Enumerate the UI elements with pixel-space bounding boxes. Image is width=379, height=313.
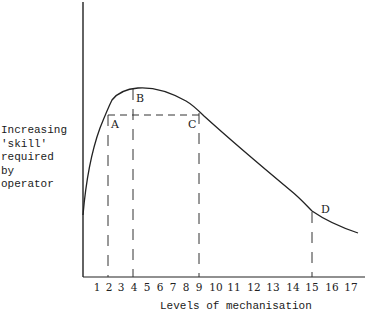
x-tick-14: 14 [286, 281, 300, 293]
skill-curve [83, 88, 358, 233]
y-axis-label: Increasing 'skill' required by operator [1, 124, 67, 192]
x-tick-4: 4 [131, 281, 138, 293]
x-tick-5: 5 [144, 281, 151, 293]
x-tick-2: 2 [106, 281, 113, 293]
x-tick-9: 9 [196, 281, 203, 293]
x-tick-6: 6 [157, 281, 164, 293]
x-tick-7: 7 [170, 281, 177, 293]
x-axis-label: Levels of mechanisation [160, 300, 312, 312]
x-tick-labels: 1 2 3 4 5 6 7 8 9 10 11 12 13 14 15 16 1… [94, 281, 358, 293]
x-tick-13: 13 [266, 281, 279, 293]
x-tick-17: 17 [344, 281, 357, 293]
x-tick-15: 15 [305, 281, 318, 293]
x-tick-11: 11 [227, 281, 240, 293]
x-tick-8: 8 [183, 281, 190, 293]
point-label-c: C [188, 118, 196, 131]
x-tick-10: 10 [209, 281, 222, 293]
point-label-b: B [136, 92, 144, 105]
point-label-a: A [110, 118, 120, 131]
x-tick-12: 12 [247, 281, 260, 293]
x-tick-1: 1 [94, 281, 101, 293]
x-tick-3: 3 [118, 281, 125, 293]
x-tick-16: 16 [325, 281, 339, 293]
point-label-d: D [321, 203, 330, 216]
